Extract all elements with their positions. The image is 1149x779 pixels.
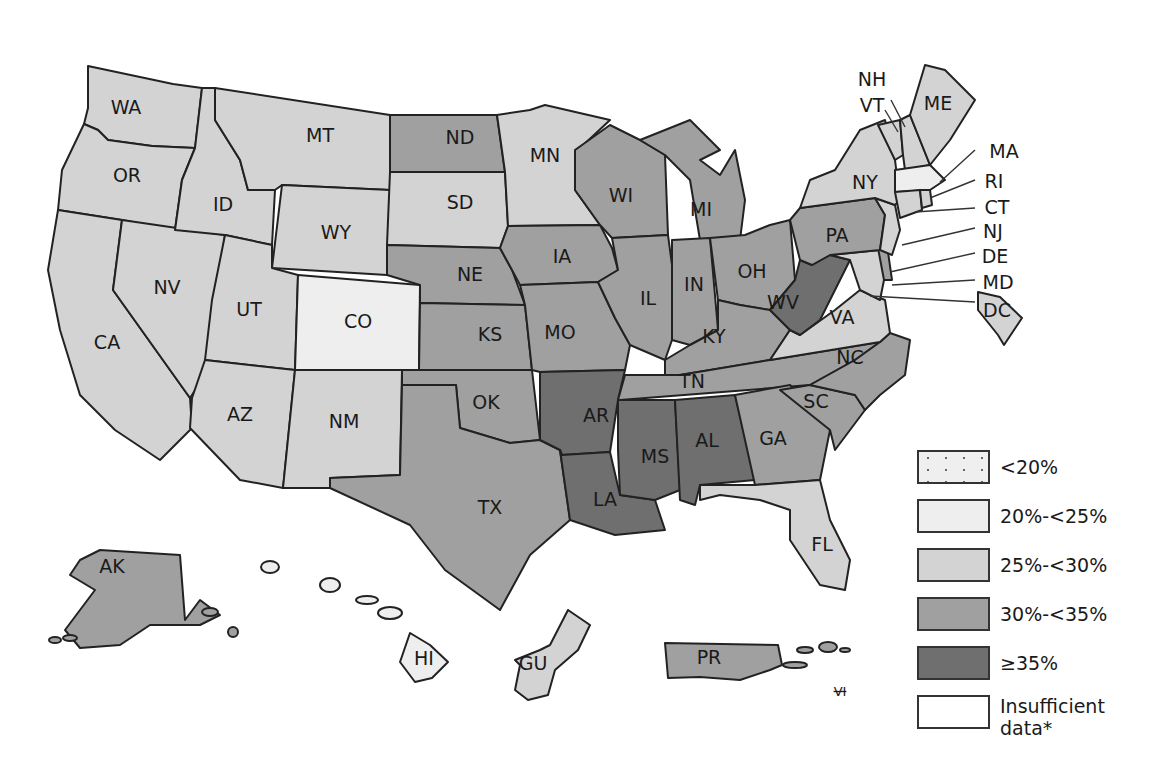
swatch [917, 695, 990, 729]
label-TN: TN [678, 370, 705, 392]
label-WV: WV [767, 291, 799, 313]
legend-label: 30%-<35% [1000, 597, 1107, 625]
island-hi-3 [356, 596, 378, 604]
legend-item-30to35: 30%-<35% [917, 597, 1142, 646]
island-pr-2 [797, 647, 813, 653]
legend-label: 20%-<25% [1000, 499, 1107, 527]
label-WY: WY [321, 221, 352, 243]
label-IN: IN [684, 273, 704, 295]
label-KY: KY [702, 325, 726, 347]
island-pr-1 [783, 662, 807, 668]
label-PA: PA [825, 224, 848, 246]
label-CO: CO [344, 310, 372, 332]
island-pr-4 [840, 648, 850, 652]
state-RI [920, 190, 932, 208]
label-ME: ME [924, 92, 952, 114]
label-KS: KS [478, 323, 503, 345]
label-AK: AK [99, 555, 125, 577]
label-VA: VA [830, 306, 855, 328]
label-IL: IL [640, 287, 657, 309]
label-GA: GA [759, 427, 787, 449]
island-ak-1 [63, 635, 77, 641]
label-MA: MA [989, 140, 1018, 162]
label-LA: LA [593, 488, 617, 510]
label-VT: VT [860, 94, 885, 116]
legend-item-insufficient: Insufficient data* [917, 695, 1142, 744]
label-NV: NV [153, 276, 180, 298]
label-MI: MI [690, 198, 712, 220]
label-SD: SD [447, 191, 474, 213]
island-pr-3 [819, 642, 837, 652]
label-IA: IA [553, 245, 572, 267]
state-MA [895, 165, 945, 192]
label-AR: AR [583, 404, 609, 426]
label-PR: PR [697, 646, 722, 668]
swatch [917, 499, 990, 533]
legend-label: ≥35% [1000, 646, 1058, 674]
island-ak-3 [202, 608, 218, 616]
label-MT: MT [306, 124, 334, 146]
label-NC: NC [836, 346, 863, 368]
state-PR [665, 643, 782, 680]
label-NY: NY [852, 171, 878, 193]
legend: <20% 20%-<25% 25%-<30% 30%-<35% ≥35% Ins… [917, 450, 1142, 744]
label-UT: UT [236, 298, 262, 320]
label-CA: CA [94, 331, 120, 353]
island-ak-4 [228, 627, 238, 637]
label-MN: MN [530, 144, 561, 166]
label-FL: FL [811, 533, 833, 555]
label-NJ: NJ [983, 220, 1003, 242]
label-MS: MS [641, 445, 669, 467]
swatch [917, 548, 990, 582]
legend-item-gte35: ≥35% [917, 646, 1142, 695]
label-CT: CT [985, 196, 1010, 218]
island-hi-2 [320, 578, 340, 592]
label-RI: RI [985, 170, 1004, 192]
island-ak-2 [49, 637, 61, 643]
swatch [917, 597, 990, 631]
legend-label: Insufficient data* [1000, 695, 1130, 739]
island-hi-1 [261, 561, 279, 573]
legend-label: 25%-<30% [1000, 548, 1107, 576]
label-ID: ID [213, 193, 233, 215]
label-OK: OK [472, 391, 500, 413]
label-GU: GU [519, 652, 548, 674]
label-WA: WA [111, 96, 142, 118]
legend-item-lt20: <20% [917, 450, 1142, 499]
state-KS [419, 303, 532, 370]
label-NH: NH [858, 68, 887, 90]
label-OR: OR [113, 164, 141, 186]
label-HI: HI [414, 647, 434, 669]
label-DC: DC [983, 299, 1011, 321]
label-TX: TX [477, 496, 503, 518]
state-CT [895, 190, 922, 218]
label-WI: WI [609, 184, 633, 206]
label-MO: MO [544, 321, 575, 343]
label-AL: AL [695, 429, 719, 451]
label-DE: DE [982, 245, 1009, 267]
swatch [917, 646, 990, 680]
label-NM: NM [329, 410, 360, 432]
label-AZ: AZ [227, 403, 253, 425]
label-SC: SC [803, 390, 828, 412]
label-MD: MD [982, 271, 1013, 293]
label-NE: NE [457, 263, 483, 285]
legend-item-25to30: 25%-<30% [917, 548, 1142, 597]
label-ND: ND [446, 126, 475, 148]
label-OH: OH [737, 260, 766, 282]
state-AK [65, 550, 220, 648]
legend-item-20to25: 20%-<25% [917, 499, 1142, 548]
island-hi-4 [378, 607, 402, 619]
swatch-dotted [917, 450, 990, 484]
label-VI: VI [834, 684, 847, 699]
legend-label: <20% [1000, 450, 1058, 478]
